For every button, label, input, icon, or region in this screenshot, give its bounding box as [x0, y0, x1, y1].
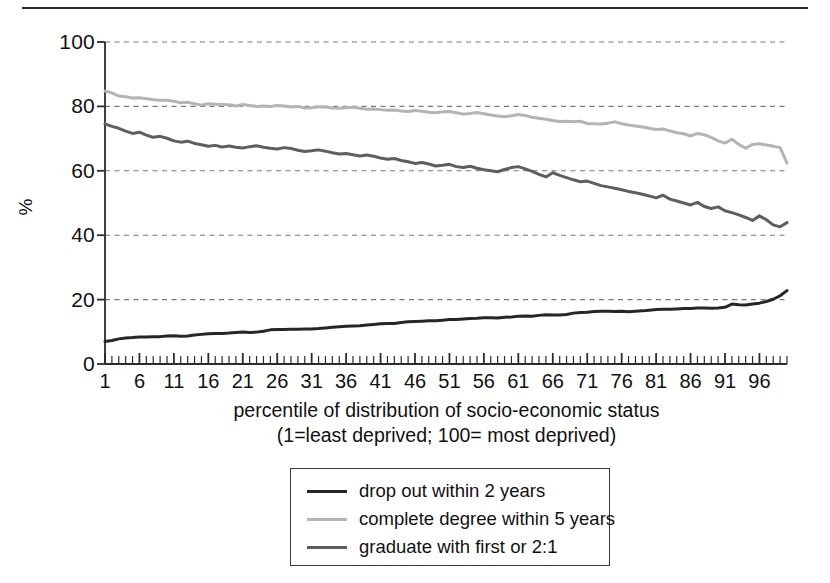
x-axis-title-line1: percentile of distribution of socio-econ…: [234, 399, 660, 421]
x-axis-tick-label: 6: [134, 370, 145, 392]
y-axis-tick-label: 100: [37, 31, 95, 52]
x-axis-tick-label: 86: [679, 370, 701, 392]
x-axis-tick-label: 31: [301, 370, 323, 392]
x-axis-tick-label: 71: [576, 370, 598, 392]
x-axis-title-line2: (1=least deprived; 100= most deprived): [105, 423, 788, 448]
legend-line-swatch-icon: [307, 490, 347, 493]
x-axis-tick-label: 51: [438, 370, 460, 392]
y-axis-tick-label: 40: [37, 224, 95, 245]
x-axis-tick-label: 81: [645, 370, 667, 392]
x-axis-tick-label: 61: [507, 370, 529, 392]
x-axis-tick-labels: 16111621263136414651566166717681869196: [0, 370, 830, 396]
series-line-3: [105, 124, 787, 227]
x-axis-tick-label: 16: [197, 370, 219, 392]
figure-container: 020406080100 % 1611162126313641465156616…: [0, 0, 830, 583]
y-axis-tick-label: 60: [37, 160, 95, 181]
series-line-1: [105, 291, 787, 342]
x-axis-title: percentile of distribution of socio-econ…: [105, 398, 788, 448]
x-axis-tick-label: 11: [163, 370, 184, 392]
x-axis-tick-label: 21: [232, 370, 254, 392]
legend-item-label: drop out within 2 years: [359, 481, 545, 501]
x-axis-tick-label: 36: [335, 370, 357, 392]
x-axis-tick-label: 91: [714, 370, 736, 392]
x-axis-tick-label: 1: [99, 370, 110, 392]
x-axis-tick-label: 66: [542, 370, 564, 392]
x-axis-tick-label: 41: [369, 370, 391, 392]
y-axis-tick-label: 80: [37, 95, 95, 116]
x-axis-tick-label: 56: [473, 370, 495, 392]
legend-line-swatch-icon: [307, 546, 347, 549]
series-line-2: [105, 91, 787, 163]
x-axis-tick-label: 96: [748, 370, 770, 392]
legend-item-label: complete degree within 5 years: [359, 509, 615, 529]
x-axis-tick-label: 76: [611, 370, 633, 392]
y-axis-tick-label: 20: [37, 289, 95, 310]
x-axis-tick-label: 46: [404, 370, 426, 392]
y-axis-title: %: [15, 199, 37, 216]
legend-line-swatch-icon: [307, 518, 347, 521]
x-axis-tick-label: 26: [266, 370, 288, 392]
chart-legend: drop out within 2 yearscomplete degree w…: [290, 468, 610, 566]
y-axis-tick-labels: 020406080100: [37, 0, 95, 400]
legend-item[interactable]: complete degree within 5 years: [291, 506, 609, 532]
legend-item[interactable]: graduate with first or 2:1: [291, 534, 609, 560]
legend-item-label: graduate with first or 2:1: [359, 537, 557, 557]
legend-item[interactable]: drop out within 2 years: [291, 478, 609, 504]
